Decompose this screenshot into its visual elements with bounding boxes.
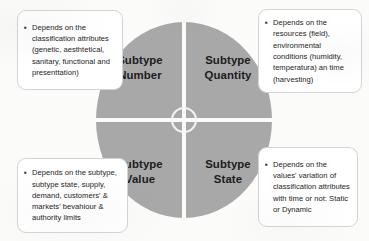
callout-market[interactable]: ▪ Depends on the subtype, subtype state,… bbox=[17, 158, 128, 233]
callout-classification-text: Depends on the classification attributes… bbox=[32, 22, 115, 78]
bullet-icon: ▪ bbox=[265, 159, 272, 170]
callout-classification[interactable]: ▪ Depends on the classification attribut… bbox=[17, 10, 123, 90]
bullet-icon: ▪ bbox=[24, 22, 31, 33]
bullet-icon: ▪ bbox=[24, 167, 31, 178]
callout-market-text: Depends on the subtype, subtype state, s… bbox=[32, 167, 120, 223]
callout-resources[interactable]: ▪ Depends on the resources (field), envi… bbox=[258, 9, 362, 93]
callout-variation[interactable]: ▪ Depends on the values' variation of cl… bbox=[258, 147, 358, 227]
callout-resources-text: Depends on the resources (field), enviro… bbox=[273, 17, 354, 85]
bullet-icon: ▪ bbox=[265, 17, 272, 28]
pie-center-ring-icon bbox=[171, 107, 197, 133]
callout-variation-text: Depends on the values' variation of clas… bbox=[273, 159, 350, 215]
